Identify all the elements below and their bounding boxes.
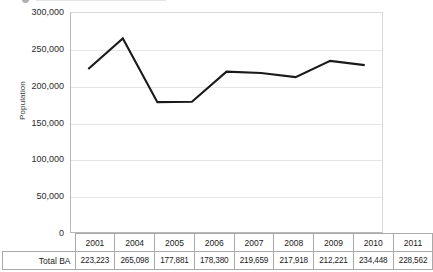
- table-column-header: 2001: [75, 234, 115, 252]
- y-axis-tick-label: 300,000: [0, 7, 64, 17]
- table-cell: 223,223: [75, 252, 115, 270]
- y-axis-tick-labels: 050,000100,000150,000200,000250,000300,0…: [0, 12, 64, 233]
- table-column-header: 2006: [194, 234, 234, 252]
- line-series-total-ba: [88, 38, 364, 102]
- table-cell: 177,881: [155, 252, 195, 270]
- y-axis-tick-label: 250,000: [0, 44, 64, 54]
- data-table: 200120042005200620072008200920102011 Tot…: [2, 233, 433, 270]
- table-row-header: Total BA: [3, 252, 76, 270]
- y-axis-tick-label: 150,000: [0, 118, 64, 128]
- table-column-header: 2007: [234, 234, 274, 252]
- cropped-marker-icon: [22, 0, 29, 3]
- table-cell: 228,562: [393, 252, 433, 270]
- y-axis-tick-label: 200,000: [0, 81, 64, 91]
- table-cell: 234,448: [353, 252, 393, 270]
- y-axis-tick-label: 50,000: [0, 191, 64, 201]
- table-header-row: 200120042005200620072008200920102011: [3, 234, 433, 252]
- plot-area: [70, 12, 383, 233]
- table-cell: 217,918: [274, 252, 314, 270]
- table-cell: 265,098: [115, 252, 155, 270]
- table-column-header: 2005: [155, 234, 195, 252]
- table-corner-cell: [3, 234, 76, 252]
- y-axis-tick-label: 100,000: [0, 154, 64, 164]
- table-cell: 219,659: [234, 252, 274, 270]
- table-column-header: 2011: [393, 234, 433, 252]
- table-cell: 178,380: [194, 252, 234, 270]
- table-cell: 212,221: [314, 252, 354, 270]
- table-column-header: 2010: [353, 234, 393, 252]
- table-column-header: 2008: [274, 234, 314, 252]
- line-series-svg: [71, 13, 382, 232]
- table-column-header: 2009: [314, 234, 354, 252]
- cropped-title-bar: [36, 0, 166, 1]
- cropped-title-artifact: [22, 0, 172, 3]
- table-row: Total BA 223,223265,098177,881178,380219…: [3, 252, 433, 270]
- table-column-header: 2004: [115, 234, 155, 252]
